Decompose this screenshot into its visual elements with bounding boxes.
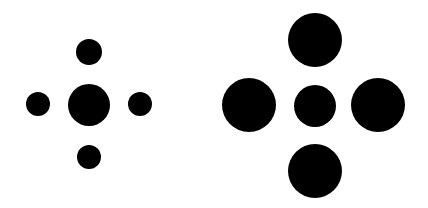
circle-right (128, 92, 152, 116)
circle-top (76, 39, 102, 65)
circle-bottom (77, 145, 101, 169)
circle-center (68, 84, 110, 126)
circle-left (26, 92, 50, 116)
circle-top (288, 13, 342, 67)
circle-bottom (288, 144, 342, 198)
circle-center (294, 85, 336, 127)
illusion-figure (0, 0, 428, 208)
circle-right (351, 78, 405, 132)
circle-left (222, 78, 276, 132)
